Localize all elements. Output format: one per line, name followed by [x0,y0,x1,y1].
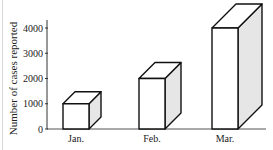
x-tick-label: Jan. [68,133,84,144]
bar-chart: 01000200030004000 Jan.Feb.Mar. Number of… [0,0,273,150]
y-ticks: 01000200030004000 [23,23,48,135]
y-tick-label: 3000 [23,48,43,59]
bar-front-face [212,28,238,129]
x-tick-label: Feb. [143,133,161,144]
y-tick-label: 2000 [23,73,43,84]
bar-front-face [63,104,89,129]
bar-feb [139,63,181,130]
bar-front-face [139,79,165,130]
bar-jan [63,92,101,129]
y-tick-label: 1000 [23,98,43,109]
y-tick-label: 4000 [23,23,43,34]
bars [63,4,262,129]
y-tick-label: 0 [38,124,43,135]
bar-mar [212,4,262,129]
y-axis-label: Number of cases reported [7,21,19,135]
x-tick-label: Mar. [216,133,235,144]
x-tick-labels: Jan.Feb.Mar. [68,133,234,144]
